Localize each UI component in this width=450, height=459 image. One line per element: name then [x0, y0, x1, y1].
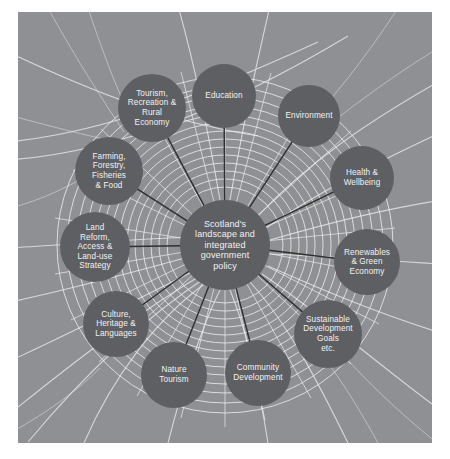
connector-nature [186, 286, 209, 345]
node-label-nature: Nature Tourism [141, 365, 207, 384]
node-label-education: Education [192, 91, 256, 101]
connector-health [265, 192, 335, 226]
node-nature[interactable]: Nature Tourism [141, 342, 207, 408]
node-farming[interactable]: Farming, Forestry, Fisheries & Food [75, 137, 143, 205]
diagram-frame: Scotland's landscape and integrated gove… [18, 12, 432, 443]
node-renewables[interactable]: Renewables & Green Economy [334, 229, 400, 295]
node-culture[interactable]: Culture, Heritage & Languages [83, 291, 149, 357]
center-node-scotland-policy[interactable]: Scotland's landscape and integrated gove… [180, 200, 270, 290]
node-environment[interactable]: Environment [278, 85, 340, 147]
node-label-sdg: Sustainable Development Goals etc. [294, 315, 362, 353]
connector-education [224, 127, 225, 201]
connector-farming [137, 189, 188, 222]
node-label-community: Community Development [225, 363, 291, 382]
node-label-renewables: Renewables & Green Economy [334, 248, 400, 277]
node-tourism-rural[interactable]: Tourism, Recreation & Rural Economy [118, 74, 186, 142]
node-label-tourism-rural: Tourism, Recreation & Rural Economy [118, 89, 186, 127]
node-label-environment: Environment [278, 111, 340, 121]
diagram-stage: Scotland's landscape and integrated gove… [0, 0, 450, 459]
connector-land-reform [129, 246, 181, 247]
node-land-reform[interactable]: Land Reform, Access & Land-use Strategy [60, 212, 130, 282]
node-community[interactable]: Community Development [225, 340, 291, 406]
center-node-label: Scotland's landscape and integrated gove… [180, 219, 270, 271]
node-label-farming: Farming, Forestry, Fisheries & Food [75, 152, 143, 190]
connector-sdg [258, 274, 303, 313]
node-label-culture: Culture, Heritage & Languages [83, 310, 149, 339]
node-label-health: Health & Wellbeing [330, 168, 394, 187]
node-sdg[interactable]: Sustainable Development Goals etc. [294, 300, 362, 368]
node-health[interactable]: Health & Wellbeing [330, 146, 394, 210]
connector-tourism-rural [168, 137, 205, 206]
node-education[interactable]: Education [192, 64, 256, 128]
connector-culture [142, 271, 190, 305]
connector-environment [249, 141, 293, 208]
connector-community [236, 288, 250, 342]
node-label-land-reform: Land Reform, Access & Land-use Strategy [60, 223, 130, 271]
connector-renewables [269, 250, 336, 258]
